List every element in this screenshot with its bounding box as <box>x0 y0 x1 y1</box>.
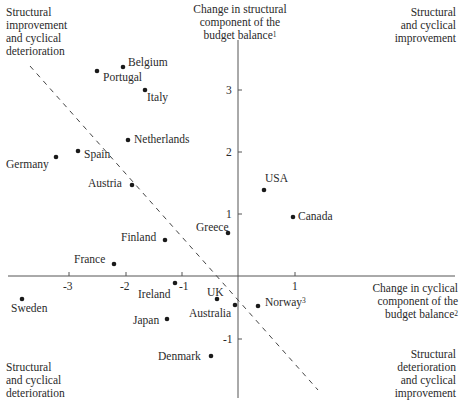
point-belgium <box>121 65 126 70</box>
point-sweden <box>20 297 25 302</box>
y-tick-label: -1 <box>223 333 233 345</box>
point-label-france: France <box>74 253 105 265</box>
point-label-denmark: Denmark <box>158 350 201 362</box>
point-austria <box>130 183 135 188</box>
point-label-ireland: Ireland <box>138 288 171 300</box>
point-label-canada: Canada <box>298 210 332 222</box>
point-label-norway: Norway3 <box>265 296 306 308</box>
y-tick-label: 1 <box>226 208 232 220</box>
point-label-sweden: Sweden <box>11 302 47 314</box>
y-tick-label: 2 <box>226 146 232 158</box>
point-label-germany: Germany <box>6 158 49 170</box>
point-label-netherlands: Netherlands <box>134 133 190 145</box>
point-netherlands <box>126 138 131 143</box>
point-japan <box>165 317 170 322</box>
point-label-portugal: Portugal <box>103 71 142 83</box>
point-spain <box>76 149 81 154</box>
point-label-japan: Japan <box>133 314 159 326</box>
quadrant-label-top-right: Structural and cyclical improvement <box>350 6 456 45</box>
point-australia <box>233 303 238 308</box>
point-canada <box>291 215 296 220</box>
quadrant-label-bottom-left: Structural and cyclical deterioration <box>6 361 65 400</box>
quadrant-label-bottom-right: Structural deterioration and cyclical im… <box>350 348 456 400</box>
point-norway <box>256 304 261 309</box>
x-tick-label: -1 <box>179 280 189 292</box>
y-axis-title: Change in structural component of the bu… <box>170 3 310 42</box>
y-tick-label: 3 <box>226 84 232 96</box>
point-label-finland: Finland <box>121 231 156 243</box>
point-label-uk: UK <box>207 286 224 298</box>
point-label-usa: USA <box>265 172 288 184</box>
y-ticks <box>238 90 242 339</box>
point-usa <box>262 188 267 193</box>
point-ireland <box>173 281 178 286</box>
quadrant-label-top-left: Structural improvement and cyclical dete… <box>6 6 67 58</box>
x-axis-title: Change in cyclical component of the budg… <box>340 282 458 321</box>
point-denmark <box>209 354 214 359</box>
point-label-belgium: Belgium <box>128 56 168 68</box>
point-label-austria: Austria <box>88 177 122 189</box>
x-tick-label: -3 <box>63 280 73 292</box>
point-label-greece: Greece <box>196 221 229 233</box>
x-tick-label: -2 <box>120 280 130 292</box>
point-label-australia: Australia <box>189 307 231 319</box>
point-label-italy: Italy <box>147 91 168 103</box>
dashed-reference-line <box>30 66 318 390</box>
x-ticks <box>69 272 295 276</box>
point-germany <box>54 155 59 160</box>
point-label-spain: Spain <box>84 148 110 160</box>
point-finland <box>163 238 168 243</box>
x-tick-label: 1 <box>292 280 298 292</box>
point-portugal <box>95 69 100 74</box>
point-france <box>112 262 117 267</box>
